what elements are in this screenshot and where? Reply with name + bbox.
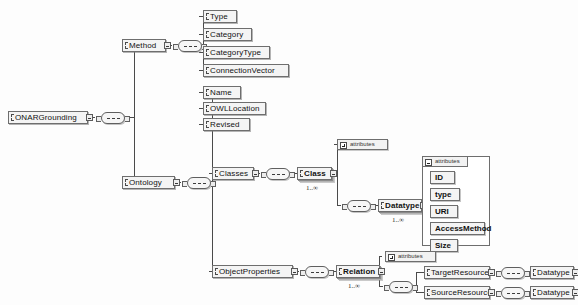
element-name[interactable]: Name [203,86,241,99]
attribute-uri-label: URI [435,207,449,217]
element-sourceresource[interactable]: SourceResource [424,286,490,299]
sequence-cap-right [125,116,130,122]
element-class-label: Class [304,169,326,179]
sequence-compositor-classes[interactable] [266,168,290,180]
expand-handle-source-datatype[interactable] [572,289,578,296]
cardinality-class: 1..∞ [306,184,318,192]
expand-handle-ontology[interactable] [173,179,180,186]
sequence-dashes [311,272,325,273]
element-relation[interactable]: Relation [336,265,380,278]
element-sourceresource-label: SourceResource [431,288,492,298]
element-objectproperties[interactable]: ObjectProperties [212,265,293,278]
element-owllocation[interactable]: OWLLocation [203,102,266,115]
cardinality-datatype: 1..∞ [392,216,404,224]
sequence-cap-left [96,116,101,122]
element-targetresource[interactable]: TargetResource [424,266,490,279]
element-source-datatype[interactable]: Datatype [530,286,574,299]
expand-handle-relation[interactable] [378,268,385,275]
expand-handle-sourceresource[interactable] [488,289,495,296]
element-revised-label: Revised [210,120,240,130]
element-objectproperties-label: ObjectProperties [219,267,280,277]
sequence-dashes [107,118,121,119]
attribute-accessmethod-label: AccessMethod [435,224,491,234]
element-revised[interactable]: Revised [203,118,250,131]
sequence-cap-left [182,181,187,187]
element-relation-label: Relation [343,267,375,277]
schema-diagram-canvas: ONARGrounding Method Type Category Categ… [0,0,578,305]
element-method[interactable]: Method [122,39,166,52]
attribute-id[interactable]: ID [430,171,455,184]
sequence-compositor-sourceresource[interactable] [501,287,525,299]
sequence-cap-left [261,172,266,178]
sequence-cap-right [211,181,216,187]
element-type[interactable]: Type [203,10,237,23]
sequence-dashes [395,287,409,288]
element-ontology[interactable]: Ontology [122,176,175,189]
sequence-compositor-relation[interactable] [389,281,413,293]
sequence-cap-left [384,285,389,291]
attribute-id-label: ID [435,173,443,183]
sequence-cap-left [496,291,501,297]
sequence-dashes [193,183,207,184]
expand-handle-targetresource[interactable] [488,269,495,276]
element-target-datatype-label: Datatype [537,268,570,278]
attributes-group-relation-label: attributes [398,252,423,261]
element-datatype[interactable]: Datatype [378,199,422,212]
collapse-toggle-icon[interactable] [425,159,432,166]
sequence-cap-left [496,271,501,277]
expand-handle-classes[interactable] [252,170,259,177]
expand-handle-method[interactable] [164,42,171,49]
element-method-label: Method [129,41,156,51]
element-datatype-label: Datatype [385,201,420,211]
sequence-compositor-objectproperties[interactable] [305,266,329,278]
element-owllocation-label: OWLLocation [210,104,260,114]
element-ontology-label: Ontology [129,178,162,188]
sequence-dashes [507,293,521,294]
element-categorytype[interactable]: CategoryType [203,46,270,59]
expand-handle-target-datatype[interactable] [572,269,578,276]
sequence-cap-right [329,270,334,276]
attribute-accessmethod[interactable]: AccessMethod [430,222,485,235]
cardinality-relation: 1..∞ [348,282,360,290]
element-class[interactable]: Class [297,167,332,180]
element-classes[interactable]: Classes [212,167,254,180]
element-targetresource-label: TargetResource [431,268,489,278]
attribute-uri[interactable]: URI [430,205,458,218]
attributes-panel-label: attributes [435,157,460,166]
attributes-panel-header[interactable]: attributes [422,156,468,167]
expand-toggle-icon[interactable] [388,254,395,261]
element-source-datatype-label: Datatype [537,288,570,298]
sequence-cap-right [290,172,295,178]
sequence-cap-left [300,270,305,276]
connector-lines [0,0,578,305]
sequence-cap-left [173,44,178,50]
expand-handle-objectproperties[interactable] [291,268,298,275]
sequence-dashes [272,174,286,175]
attribute-size-label: Size [435,241,451,251]
attribute-type-label: type [435,190,451,200]
sequence-compositor-method[interactable] [178,40,202,52]
attribute-type[interactable]: type [430,188,460,201]
expand-handle-onargrounding[interactable] [86,114,93,121]
expand-toggle-icon[interactable] [340,142,347,149]
element-connectionvector-label: ConnectionVector [210,66,275,76]
element-category-label: Category [210,30,243,40]
element-category[interactable]: Category [203,28,252,41]
sequence-compositor-targetresource[interactable] [501,267,525,279]
sequence-cap-right [371,204,376,210]
sequence-compositor-root[interactable] [101,112,125,124]
element-name-label: Name [210,88,232,98]
attributes-group-relation[interactable]: attributes [385,251,436,262]
sequence-dashes [184,46,198,47]
sequence-compositor-class[interactable] [347,200,371,212]
element-categorytype-label: CategoryType [210,48,261,58]
attributes-group-class[interactable]: attributes [337,139,388,150]
element-connectionvector[interactable]: ConnectionVector [203,64,289,77]
element-target-datatype[interactable]: Datatype [530,266,574,279]
sequence-compositor-ontology[interactable] [187,177,211,189]
attributes-group-class-label: attributes [350,140,375,149]
element-onargrounding[interactable]: ONARGrounding [8,111,88,124]
element-classes-label: Classes [219,169,248,179]
expand-handle-class[interactable] [330,170,337,177]
sequence-dashes [353,206,367,207]
